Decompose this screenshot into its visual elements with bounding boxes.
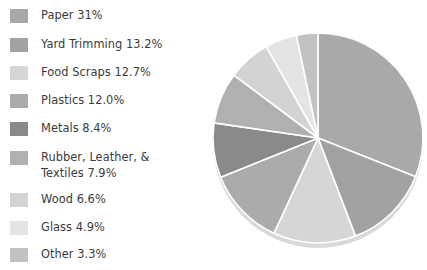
legend-item[interactable]: Glass 4.9%: [10, 220, 105, 236]
chart-legend: Paper 31%Yard Trimming 13.2%Food Scraps …: [0, 0, 205, 270]
legend-item[interactable]: Paper 31%: [10, 8, 103, 24]
legend-item[interactable]: Wood 6.6%: [10, 192, 106, 208]
legend-item-label: Food Scraps 12.7%: [41, 65, 151, 81]
legend-item-label: Other 3.3%: [41, 247, 106, 263]
legend-swatch-food-scraps: [10, 66, 28, 80]
legend-item[interactable]: Other 3.3%: [10, 247, 106, 263]
legend-item-label: Plastics 12.0%: [41, 93, 124, 109]
legend-item-label: Yard Trimming 13.2%: [41, 37, 162, 53]
legend-item[interactable]: Yard Trimming 13.2%: [10, 37, 162, 53]
legend-swatch-metals: [10, 122, 28, 136]
legend-item-label: Metals 8.4%: [41, 121, 112, 137]
pie-svg: [205, 25, 427, 255]
legend-item[interactable]: Rubber, Leather, & Textiles 7.9%: [10, 150, 150, 181]
pie-chart-graphic: [205, 25, 427, 255]
legend-item-label: Glass 4.9%: [41, 220, 105, 236]
legend-swatch-rubber-leather-textiles: [10, 151, 28, 165]
legend-item[interactable]: Metals 8.4%: [10, 121, 112, 137]
legend-swatch-yard-trimming: [10, 38, 28, 52]
legend-item[interactable]: Food Scraps 12.7%: [10, 65, 151, 81]
legend-item-label: Rubber, Leather, & Textiles 7.9%: [41, 150, 150, 181]
legend-item[interactable]: Plastics 12.0%: [10, 93, 124, 109]
pie-chart-figure: Paper 31%Yard Trimming 13.2%Food Scraps …: [0, 0, 427, 270]
legend-swatch-plastics: [10, 94, 28, 108]
pie-slices: [213, 33, 423, 243]
legend-swatch-glass: [10, 221, 28, 235]
legend-swatch-other: [10, 248, 28, 262]
legend-swatch-paper: [10, 9, 28, 23]
legend-item-label: Wood 6.6%: [41, 192, 106, 208]
legend-swatch-wood: [10, 193, 28, 207]
legend-item-label: Paper 31%: [41, 8, 103, 24]
